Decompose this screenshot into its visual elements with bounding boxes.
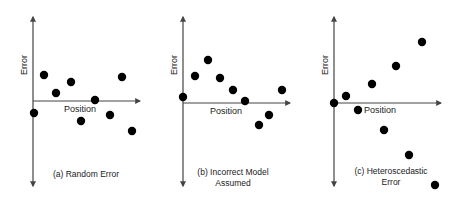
panel-caption-line-1: (c) Heteroscedastic — [354, 166, 428, 176]
data-point — [255, 121, 263, 129]
data-point — [67, 78, 75, 86]
data-point — [278, 86, 286, 94]
data-point — [380, 126, 388, 134]
data-point — [431, 181, 439, 189]
data-point — [128, 127, 136, 135]
data-point — [392, 62, 400, 70]
x-axis-label: Position — [210, 106, 242, 116]
data-point — [106, 111, 114, 119]
y-axis-label: Error — [19, 55, 29, 75]
data-point — [229, 86, 237, 94]
data-point — [77, 117, 85, 125]
data-point — [418, 38, 426, 46]
data-point — [354, 106, 362, 114]
data-point — [191, 72, 199, 80]
panel-caption: (a) Random Error — [53, 169, 119, 179]
panel-c-heteroscedastic-error: Error Position (c) Heteroscedastic Error — [320, 17, 441, 189]
data-point — [265, 111, 273, 119]
panel-a-random-error: Error Position (a) Random Error — [19, 17, 140, 186]
residual-patterns-figure: Error Position (a) Random Error Error Po… — [0, 0, 463, 199]
y-axis-label: Error — [320, 55, 330, 75]
data-point — [30, 109, 38, 117]
data-point — [204, 56, 212, 64]
panel-caption-line-2: Error — [382, 177, 401, 187]
data-point — [91, 96, 99, 104]
data-points — [179, 56, 286, 129]
x-axis-label: Position — [64, 104, 96, 114]
data-point — [118, 73, 126, 81]
data-point — [179, 93, 187, 101]
data-point — [342, 92, 350, 100]
data-point — [368, 80, 376, 88]
y-axis-label: Error — [169, 55, 179, 75]
data-point — [241, 97, 249, 105]
data-point — [330, 99, 338, 107]
data-point — [52, 89, 60, 97]
data-point — [216, 74, 224, 82]
panel-caption-line-1: (b) Incorrect Model — [197, 167, 268, 177]
x-axis-label: Position — [364, 105, 396, 115]
data-point — [40, 71, 48, 79]
data-points — [30, 71, 136, 135]
data-point — [405, 151, 413, 159]
panel-caption-line-2: Assumed — [215, 178, 251, 188]
panel-b-incorrect-model: Error Position (b) Incorrect Model Assum… — [169, 17, 290, 188]
